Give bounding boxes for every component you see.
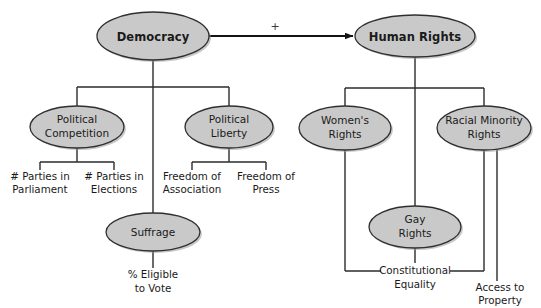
node-gay-rights[interactable]: Gay Rights xyxy=(369,206,463,250)
indicator-freedom-press-line2: Press xyxy=(252,183,279,195)
indicator-parties-parliament-line1: # Parties in xyxy=(10,170,69,182)
node-human-rights[interactable]: Human Rights xyxy=(355,15,477,59)
indicator-eligible-vote: % Eligible to Vote xyxy=(128,268,178,294)
node-racial-minority-rights[interactable]: Racial Minority Rights xyxy=(437,106,533,152)
node-human-rights-label: Human Rights xyxy=(369,30,462,44)
indicator-parties-elections-line2: Elections xyxy=(91,183,137,195)
node-racial-minority-rights-label-line2: Rights xyxy=(467,128,500,140)
indicator-freedom-press-line1: Freedom of xyxy=(237,170,295,182)
indicator-parties-elections: # Parties in Elections xyxy=(84,170,143,195)
indicator-freedom-press: Freedom of Press xyxy=(237,170,295,195)
node-womens-rights-label-line1: Women's xyxy=(321,114,369,126)
node-political-liberty[interactable]: Political Liberty xyxy=(185,106,275,150)
relation-plus-sign: + xyxy=(270,20,279,33)
indicator-eligible-vote-line2: to Vote xyxy=(135,282,172,294)
concept-map-diagram: Democracy Human Rights Political Competi… xyxy=(0,0,541,308)
node-political-liberty-label-line1: Political xyxy=(209,113,249,125)
indicator-freedom-association-line1: Freedom of xyxy=(163,170,221,182)
node-gay-rights-label-line1: Gay xyxy=(405,213,426,225)
indicator-parties-elections-line1: # Parties in xyxy=(84,170,143,182)
node-political-competition-label-line1: Political xyxy=(57,113,97,125)
indicator-constitutional-equality: Constitutional Equality xyxy=(379,264,451,290)
node-womens-rights-label-line2: Rights xyxy=(328,128,361,140)
indicator-constitutional-equality-line2: Equality xyxy=(394,278,436,290)
node-political-competition-label-line2: Competition xyxy=(45,127,109,139)
indicator-access-property-line2: Property xyxy=(478,294,522,306)
indicator-access-property-line1: Access to xyxy=(476,281,525,293)
node-gay-rights-label-line2: Rights xyxy=(398,227,431,239)
indicator-freedom-association: Freedom of Association xyxy=(163,170,222,195)
indicator-eligible-vote-line1: % Eligible xyxy=(128,268,178,280)
node-racial-minority-rights-label-line1: Racial Minority xyxy=(445,114,523,126)
indicator-access-property: Access to Property xyxy=(476,281,525,306)
node-womens-rights[interactable]: Women's Rights xyxy=(299,106,393,152)
indicator-parties-parliament-line2: Parliament xyxy=(12,183,67,195)
node-suffrage[interactable]: Suffrage xyxy=(106,213,202,253)
node-democracy-label: Democracy xyxy=(117,30,190,44)
indicator-parties-parliament: # Parties in Parliament xyxy=(10,170,69,195)
node-democracy[interactable]: Democracy xyxy=(97,12,211,62)
node-political-liberty-label-line2: Liberty xyxy=(211,127,248,139)
node-suffrage-label: Suffrage xyxy=(131,226,175,238)
indicator-freedom-association-line2: Association xyxy=(163,183,222,195)
indicator-constitutional-equality-line1: Constitutional xyxy=(379,264,451,276)
node-political-competition[interactable]: Political Competition xyxy=(30,106,126,150)
